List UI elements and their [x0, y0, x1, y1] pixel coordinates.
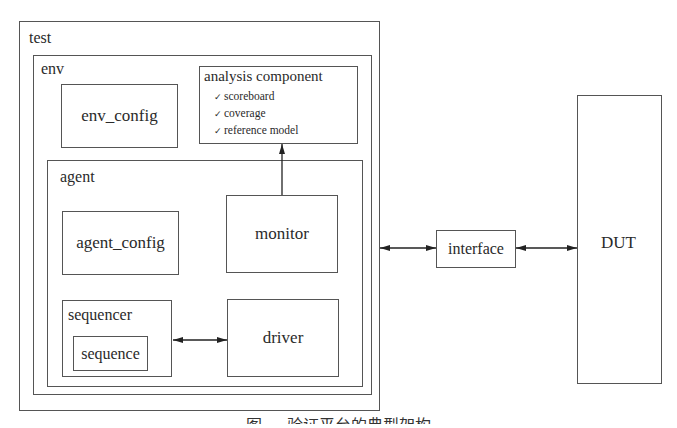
interface-label: interface — [448, 240, 504, 258]
sequencer-label: sequencer — [68, 306, 132, 324]
driver-box: driver — [227, 299, 339, 377]
driver-label: driver — [263, 328, 304, 348]
check-icon: ✓ — [214, 126, 222, 136]
agent-label: agent — [60, 168, 95, 186]
check-icon: ✓ — [214, 92, 222, 102]
analysis-component-list: ✓scoreboard ✓coverage ✓reference model — [214, 88, 298, 139]
check-icon: ✓ — [214, 109, 222, 119]
dut-label: DUT — [601, 233, 636, 253]
sequence-box: sequence — [73, 336, 148, 371]
analysis-component-box: analysis component ✓scoreboard ✓coverage… — [199, 66, 358, 144]
list-item: ✓scoreboard — [214, 88, 298, 105]
agent-config-label: agent_config — [76, 233, 165, 253]
interface-box: interface — [436, 230, 516, 268]
env-config-label: env_config — [81, 106, 157, 126]
env-config-box: env_config — [61, 84, 178, 148]
figure-caption: 图 ... 验证平台的典型架构 — [0, 412, 677, 428]
monitor-box: monitor — [226, 195, 338, 273]
list-item: ✓reference model — [214, 122, 298, 139]
dut-box: DUT — [577, 95, 662, 384]
analysis-component-title: analysis component — [204, 68, 323, 85]
list-item: ✓coverage — [214, 105, 298, 122]
sequence-label: sequence — [81, 345, 140, 363]
env-label: env — [41, 60, 64, 78]
test-label: test — [29, 29, 51, 47]
agent-config-box: agent_config — [62, 211, 179, 275]
monitor-label: monitor — [255, 224, 309, 244]
